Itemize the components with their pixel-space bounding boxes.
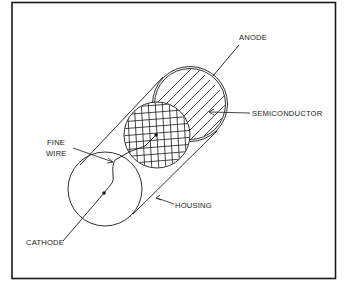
label-semiconductor: SEMICONDUCTOR xyxy=(252,109,323,118)
diode-diagram: ANODE SEMICONDUCTOR FINE WIRE HOUSING CA… xyxy=(0,0,344,283)
cathode-lead xyxy=(63,193,104,241)
label-anode: ANODE xyxy=(239,33,267,42)
label-housing: HOUSING xyxy=(175,201,212,210)
label-fine-wire-line1: FINE xyxy=(47,138,65,147)
anode-lead xyxy=(213,45,239,76)
label-cathode: CATHODE xyxy=(26,238,64,247)
contact-point xyxy=(154,133,157,136)
label-fine-wire-line2: WIRE xyxy=(46,149,67,158)
cathode-junction xyxy=(102,191,106,195)
